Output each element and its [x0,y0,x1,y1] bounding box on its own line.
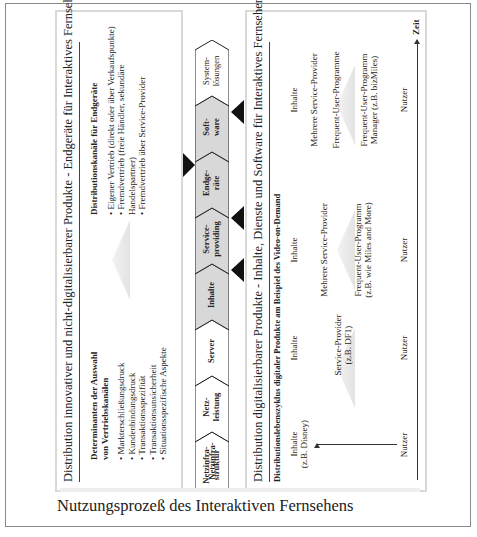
determinant-item: Markterschließungsdruck [116,260,127,460]
phase2-user: Nutzer [399,328,409,368]
phase4-source: Inhalte [289,80,299,120]
stage-label: Netz-leistung [202,382,221,432]
determinant-item: Situationsspezifische Aspekte [158,260,169,460]
title-underline [269,42,270,482]
determinants-heading-1: Determinanten der Auswahl [89,260,100,460]
stage-labels: Netzinfra-struktur Netz-leistung Server … [195,10,229,492]
phase2-source: Inhalte [289,328,299,368]
channels-column: Distributionskanäle für Endgeräte Eigene… [89,15,148,215]
title-underline [79,42,80,482]
scan-shadow [60,488,420,492]
phase1-user: Nutzer [399,425,409,465]
figure-caption: Nutzungsprozeß des Interaktiven Fernsehe… [57,496,353,516]
phase3-fup: Frequent-User-Programm(z.B. wie Miles an… [353,190,373,310]
stage-label: Netzinfra-struktur [202,440,221,490]
determinant-item: Transaktionsunsicherheit [148,260,159,460]
stage-label: System-lösungen [202,46,221,96]
determinants-heading-2: von Vertriebskanälen [100,260,111,460]
channel-item: Fremdvertrieb (freie Händler, sekundäre … [116,15,137,215]
hardware-distribution-panel: Distribution innovativer und nicht-digit… [55,10,183,492]
phase4-user: Nutzer [399,80,409,120]
phase3-providers: Mehrere Service-Provider [319,200,329,300]
connector-triangle-service [231,206,244,230]
phase4-manager: Frequent-User-ProgrammManager (z.B. bizM… [359,40,379,160]
stage-label: Service-providing [202,214,221,264]
phase4-providers: Mehrere Service-Provider [309,50,319,150]
connector-triangle-software [231,100,244,124]
rotated-figure: Distribution innovativer und nicht-digit… [55,10,427,492]
time-axis-arrow [417,40,418,480]
phase4-fups: Frequent-User-Programme [331,50,341,150]
phase1-arrow [317,444,397,445]
hardware-panel-title: Distribution innovativer und nicht-digit… [61,0,76,482]
phase1-source: Inhalte(z.B. Disney) [289,414,309,474]
digital-panel-title: Distribution digitalisierbarer Produkte … [251,0,266,482]
channels-heading: Distributionskanäle für Endgeräte [89,15,100,215]
stage-label: Server [207,326,217,376]
connector-triangle-inhalte [231,258,244,282]
stage-label: Soft-ware [202,102,221,152]
channel-item: Eigener Vertrieb (direkt oder über Verka… [106,15,117,215]
channel-item: Fremdvertrieb über Service-Provider [137,15,148,215]
determinant-item: Transaktionsspezifität [137,260,148,460]
stage-label: Endge-räte [202,158,221,208]
lifecycle-subtitle: Distributionslebenszyklus digitaler Prod… [272,194,282,482]
time-axis-label: Zeit [411,20,421,36]
phase3-user: Nutzer [399,230,409,270]
phase2-provider: Service-Provider(z.B. DF1) [333,305,353,385]
connector-triangle-endgeraete [183,153,195,177]
digital-distribution-panel: Distribution digitalisierbarer Produkte … [245,10,427,492]
phase3-source: Inhalte [289,230,299,270]
stage-label: Inhalte [207,270,217,320]
